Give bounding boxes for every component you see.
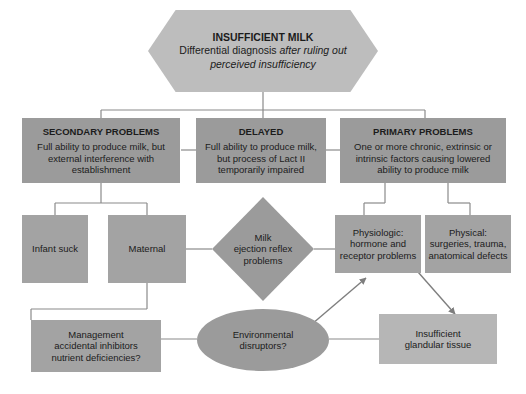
node-insufficient-milk: INSUFFICIENT MILK Differential diagnosis… <box>148 10 378 92</box>
environmental-line2: disruptors? <box>240 340 287 351</box>
node-secondary-problems: SECONDARY PROBLEMS Full ability to produ… <box>22 118 180 183</box>
milk-ejection-line3: problems <box>243 255 282 266</box>
glandular-line1: Insufficient <box>415 328 460 339</box>
ellipse-text: Environmental disruptors? <box>197 309 329 371</box>
physical-line3: anatomical defects <box>428 250 507 261</box>
node-physical: Physical: surgeries, trauma, anatomical … <box>425 215 511 273</box>
primary-body: One or more chronic, extrinsic or intrin… <box>345 141 501 175</box>
node-environmental-disruptors: Environmental disruptors? <box>197 309 329 371</box>
node-delayed: DELAYED Full ability to produce milk, bu… <box>196 118 326 183</box>
node-milk-ejection-reflex: Milk ejection reflex problems <box>212 197 314 301</box>
physiologic-line1: Physiologic: <box>353 227 404 238</box>
milk-ejection-line2: ejection reflex <box>234 243 293 254</box>
primary-title: PRIMARY PROBLEMS <box>373 126 473 137</box>
node-management: Management accidental inhibitors nutrien… <box>31 320 161 372</box>
node-infant-suck: Infant suck <box>22 215 88 283</box>
glandular-line2: glandular tissue <box>405 339 472 350</box>
environmental-line1: Environmental <box>233 329 294 340</box>
physical-line2: surgeries, trauma, <box>430 238 507 249</box>
arrow-physical-to-glandular <box>418 272 455 314</box>
root-line1: Differential diagnosis after ruling out <box>179 44 346 57</box>
physical-line1: Physical: <box>449 227 487 238</box>
root-title: INSUFFICIENT MILK <box>213 31 314 44</box>
node-physiologic: Physiologic: hormone and receptor proble… <box>335 215 421 273</box>
maternal-label: Maternal <box>129 243 166 254</box>
secondary-title: SECONDARY PROBLEMS <box>43 126 160 137</box>
root-line1-italic: after ruling out <box>280 44 347 56</box>
management-line3: nutrient deficiencies? <box>51 352 140 363</box>
delayed-title: DELAYED <box>239 126 284 137</box>
delayed-body: Full ability to produce milk, but proces… <box>201 141 321 175</box>
node-primary-problems: PRIMARY PROBLEMS One or more chronic, ex… <box>340 118 506 183</box>
hexagon-text: INSUFFICIENT MILK Differential diagnosis… <box>148 10 378 92</box>
diamond-text: Milk ejection reflex problems <box>212 197 314 301</box>
node-insufficient-glandular-tissue: Insufficient glandular tissue <box>379 314 497 364</box>
physiologic-line3: receptor problems <box>340 250 417 261</box>
physiologic-line2: hormone and <box>350 238 406 249</box>
root-line1-plain: Differential diagnosis <box>179 44 276 56</box>
node-maternal: Maternal <box>108 215 186 283</box>
management-line1: Management <box>68 329 123 340</box>
milk-ejection-line1: Milk <box>255 232 272 243</box>
management-line2: accidental inhibitors <box>54 340 137 351</box>
flowchart-canvas: INSUFFICIENT MILK Differential diagnosis… <box>0 0 526 394</box>
secondary-body: Full ability to produce milk, but extern… <box>27 141 175 175</box>
infant-suck-label: Infant suck <box>32 243 78 254</box>
root-line2-italic: perceived insufficiency <box>210 58 316 71</box>
